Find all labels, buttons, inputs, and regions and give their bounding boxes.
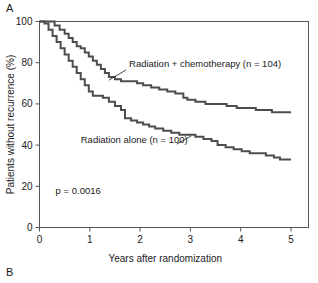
radiation-alone-label: Radiation alone (n = 100)	[81, 134, 188, 145]
y-axis-ticks: 020406080100	[16, 16, 40, 233]
x-axis-ticks: 012345	[37, 228, 295, 245]
y-tick-label: 0	[27, 222, 33, 233]
x-tick-label: 4	[238, 234, 244, 245]
radiation-chemo-label: Radiation + chemotherapy (n = 104)	[129, 58, 281, 69]
p-value-annotation: p = 0.0016	[56, 185, 101, 196]
chart-annotations: Radiation + chemotherapy (n = 104)Radiat…	[56, 58, 282, 196]
x-axis-title: Years after randomization	[108, 253, 222, 264]
y-tick-label: 80	[21, 57, 33, 68]
y-tick-label: 40	[21, 140, 33, 151]
kaplan-meier-chart: 020406080100 012345 Radiation + chemothe…	[0, 0, 318, 283]
y-tick-label: 100	[16, 16, 33, 27]
x-tick-label: 2	[137, 234, 143, 245]
x-tick-label: 5	[288, 234, 294, 245]
x-tick-label: 1	[87, 234, 93, 245]
y-tick-label: 60	[21, 98, 33, 109]
x-tick-label: 0	[37, 234, 43, 245]
x-tick-label: 3	[188, 234, 194, 245]
y-axis-title: Patients without recurrence (%)	[5, 55, 16, 195]
plot-frame	[40, 22, 309, 228]
y-tick-label: 20	[21, 181, 33, 192]
